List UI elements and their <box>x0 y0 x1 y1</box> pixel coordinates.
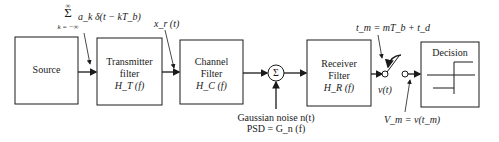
transmitter-line1: Transmitter <box>97 56 162 68</box>
receiver-line1: Receiver <box>307 58 371 70</box>
input-sum-expression: a_k δ(t − kT_b) <box>78 11 141 22</box>
channel-filter-label: Channel Filter H_C (f) <box>180 56 243 92</box>
channel-line2: Filter <box>180 68 243 80</box>
input-sum-lower: k = −∞ <box>54 22 82 33</box>
receiver-filter-label: Receiver Filter H_R (f) <box>307 58 371 94</box>
source-label: Source <box>15 64 78 76</box>
receiver-tf: H_R (f) <box>307 82 371 94</box>
channel-line1: Channel <box>180 56 243 68</box>
switch-rotation-arrow <box>388 55 401 67</box>
xr-label: x_r (t) <box>154 18 179 29</box>
pointer-sample-time <box>378 35 382 58</box>
channel-tf: H_C (f) <box>180 80 243 92</box>
pointer-input-sum <box>84 33 90 64</box>
summer-symbol: Σ <box>268 67 284 78</box>
pointer-vm <box>405 80 410 112</box>
transmitter-filter-label: Transmitter filter H_T (f) <box>97 56 162 92</box>
transmitter-tf: H_T (f) <box>97 80 162 92</box>
transmitter-line2: filter <box>97 68 162 80</box>
input-sum-sigma: Σ <box>60 7 76 18</box>
sample-time-label: t_m = mT_b + t_d <box>356 22 430 33</box>
switch-contact-right <box>402 71 408 77</box>
vt-label: v(t) <box>378 84 392 95</box>
noise-label-line1: Gaussian noise n(t) <box>226 112 326 123</box>
vm-label: V_m = v(t_m) <box>384 114 440 125</box>
decision-label: Decision <box>421 47 479 58</box>
pointer-xr <box>165 30 174 68</box>
noise-label-line2: PSD = G_n (f) <box>226 123 326 134</box>
receiver-line2: Filter <box>307 70 371 82</box>
